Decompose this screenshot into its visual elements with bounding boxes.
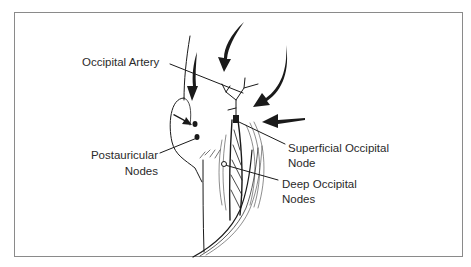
ear-outline bbox=[170, 98, 202, 182]
label-deep-line2: Nodes bbox=[282, 192, 315, 206]
arrow-right-large bbox=[253, 45, 287, 107]
label-occipital-artery: Occipital Artery bbox=[82, 55, 159, 69]
neck-line bbox=[203, 160, 204, 252]
postauricular-node-1 bbox=[193, 121, 198, 127]
anatomical-figure: Occipital Artery Postauricular Nodes Sup… bbox=[0, 0, 471, 267]
label-postauricular-line2: Nodes bbox=[80, 164, 158, 178]
superficial-occipital-node bbox=[233, 115, 239, 123]
leader-occipital-artery bbox=[170, 64, 243, 93]
arrow-top bbox=[218, 22, 244, 72]
anatomy-illustration bbox=[0, 0, 471, 267]
deep-occipital-node bbox=[222, 162, 227, 167]
label-superficial-line2: Node bbox=[288, 156, 316, 170]
arrow-ear-small bbox=[173, 114, 192, 125]
postauricular-node-2 bbox=[195, 134, 200, 140]
drainage-arrows bbox=[173, 22, 305, 128]
arrow-horizontal bbox=[262, 114, 305, 128]
arrow-ear bbox=[187, 52, 198, 101]
occipital-artery bbox=[222, 78, 258, 118]
label-superficial-line1: Superficial Occipital bbox=[288, 141, 389, 155]
leader-superficial bbox=[239, 122, 285, 144]
label-deep-line1: Deep Occipital bbox=[282, 177, 357, 191]
label-postauricular-line1: Postauricular bbox=[80, 148, 158, 162]
muscle-strip bbox=[230, 120, 232, 220]
leader-postauricular bbox=[160, 138, 197, 153]
